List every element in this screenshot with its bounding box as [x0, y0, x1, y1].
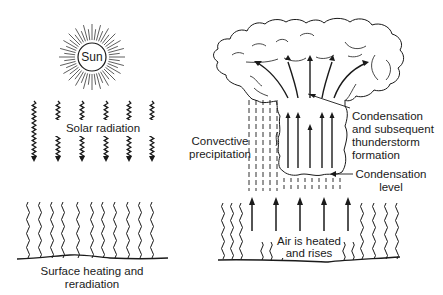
cloud-updraft-arrows [286, 112, 335, 168]
convective-thunderstorm-diagram: Sun Solar radiation Surface heating and … [0, 0, 443, 295]
sun-label: Sun [81, 50, 102, 64]
sun-icon: Sun [59, 24, 125, 90]
convective-rain-lines [249, 100, 277, 191]
surface-heat-squiggles [27, 202, 154, 258]
surface-label-line2: reradiation [65, 278, 119, 290]
right-panel: Convective precipitation Condensation an… [189, 18, 435, 262]
left-panel: Sun Solar radiation Surface heating and … [17, 24, 168, 290]
air-heated-label-line1: Air is heated [277, 235, 341, 247]
air-heated-label-line2: and rises [286, 247, 333, 259]
convective-label-line1: Convective [192, 135, 249, 147]
leader-arrowhead-level [330, 171, 336, 177]
fanning-updraft-arrows [256, 60, 366, 98]
solar-radiation-label: Solar radiation [66, 122, 140, 134]
leader-lines [308, 94, 353, 174]
surface-label-line1: Surface heating and [41, 265, 144, 277]
condensation-thunder-label-line4: formation [352, 149, 400, 161]
convective-label-line2: precipitation [189, 148, 251, 160]
condensation-level-label-line2: level [379, 181, 403, 193]
rain-below-cloud-base [284, 178, 340, 191]
condensation-thunder-label-line3: thunderstorm [352, 136, 420, 148]
air-rising-arrows [249, 197, 351, 231]
condensation-thunder-label-line2: and subsequent [352, 123, 435, 135]
condensation-thunder-label-line1: Condensation [352, 110, 423, 122]
condensation-level-label-line1: Condensation [356, 168, 427, 180]
